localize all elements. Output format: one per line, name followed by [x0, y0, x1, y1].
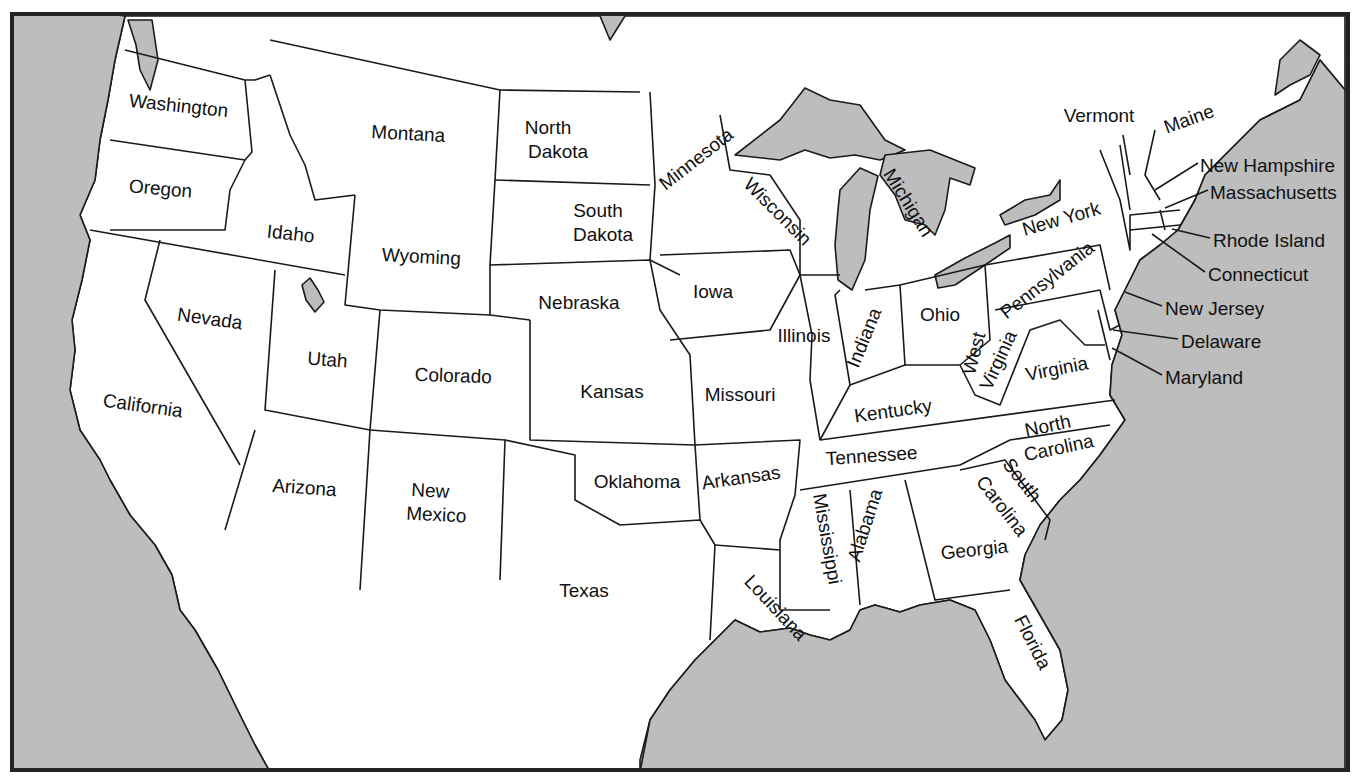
label-north-dakota-line2: Dakota [528, 141, 589, 162]
label-oklahoma: Oklahoma [594, 471, 681, 492]
label-rhode-island: Rhode Island [1213, 230, 1325, 251]
label-new-mexico-line2: Mexico [406, 502, 467, 526]
map-canvas: Washington Oregon California Idaho Nevad… [10, 12, 1350, 772]
label-massachusetts: Massachusetts [1210, 182, 1337, 203]
label-utah: Utah [307, 348, 349, 372]
label-connecticut: Connecticut [1208, 264, 1309, 285]
label-montana: Montana [371, 121, 446, 146]
label-missouri: Missouri [705, 384, 776, 405]
label-north-dakota-line1: North [525, 117, 571, 138]
label-south-dakota-line1: South [573, 200, 623, 221]
label-texas: Texas [559, 580, 609, 601]
label-delaware: Delaware [1181, 331, 1261, 352]
label-illinois: Illinois [778, 325, 831, 346]
label-new-hampshire: New Hampshire [1200, 155, 1335, 176]
label-nebraska: Nebraska [538, 292, 620, 313]
label-new-mexico-line1: New [411, 479, 450, 502]
label-iowa: Iowa [693, 281, 734, 302]
label-wyoming: Wyoming [381, 244, 461, 269]
us-states-map: Washington Oregon California Idaho Nevad… [10, 12, 1350, 772]
label-colorado: Colorado [414, 364, 492, 388]
label-ohio: Ohio [920, 304, 960, 325]
label-kansas: Kansas [580, 381, 643, 402]
label-south-dakota-line2: Dakota [573, 224, 634, 245]
label-maryland: Maryland [1165, 367, 1243, 388]
label-vermont: Vermont [1064, 105, 1135, 126]
label-new-jersey: New Jersey [1165, 298, 1265, 319]
